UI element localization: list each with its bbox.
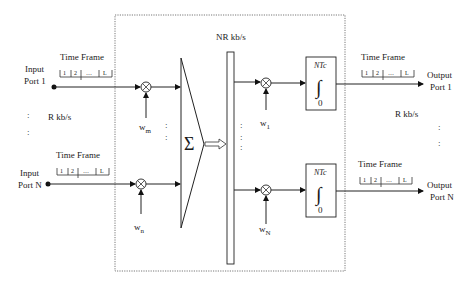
hollow-arrow-icon bbox=[205, 139, 226, 149]
svg-text:2: 2 bbox=[74, 70, 77, 76]
svg-text:2: 2 bbox=[376, 70, 379, 76]
input-rate-label: R kb/s bbox=[48, 112, 72, 122]
ellipsis-vertical: : bbox=[240, 142, 243, 152]
output-branch-n: wN NTc ∫ 0 Time Frame 1 2 … L Output Por… bbox=[234, 159, 454, 237]
ellipsis-vertical: : bbox=[165, 120, 168, 130]
sigma-icon: Σ bbox=[184, 134, 194, 154]
bus-rate-label: NR kb/s bbox=[216, 32, 246, 42]
input-port-1-label-line1: Input bbox=[25, 64, 44, 74]
input-port-1-label-line2: Port 1 bbox=[24, 76, 46, 86]
output-port-n-frame-label: Time Frame bbox=[358, 159, 402, 169]
input-port-n-frame-label: Time Frame bbox=[56, 150, 100, 160]
ellipsis-vertical: : bbox=[165, 132, 168, 142]
svg-text:L: L bbox=[405, 70, 409, 76]
svg-text:L: L bbox=[100, 168, 104, 174]
weight-wn: wn bbox=[134, 222, 145, 235]
svg-text:…: … bbox=[386, 177, 392, 183]
ellipsis-vertical: : bbox=[240, 120, 243, 130]
output-port-1-time-frame: 1 2 … L bbox=[362, 70, 414, 80]
svg-text:…: … bbox=[86, 70, 92, 76]
integrator-lower-limit: 0 bbox=[318, 205, 323, 215]
bus-bar bbox=[227, 52, 234, 264]
weight-wN: wN bbox=[259, 224, 271, 237]
weight-wm: wm bbox=[139, 122, 152, 135]
svg-text:2: 2 bbox=[374, 177, 377, 183]
svg-text:1: 1 bbox=[60, 168, 63, 174]
input-port-n: Input Port N Time Frame 1 2 … L wn bbox=[18, 150, 180, 235]
svg-text:L: L bbox=[103, 70, 107, 76]
output-port-1-frame-label: Time Frame bbox=[361, 52, 405, 62]
ellipsis-vertical: : bbox=[240, 132, 243, 142]
weight-w1: w1 bbox=[260, 118, 271, 131]
svg-text:…: … bbox=[83, 168, 89, 174]
output-port-1-label-line2: Port 1 bbox=[430, 82, 452, 92]
multiplier-icon bbox=[141, 82, 151, 92]
output-port-n-label-line1: Output bbox=[427, 180, 453, 190]
switch-architecture-diagram: Input Port 1 Time Frame 1 2 … L wm : : R… bbox=[0, 0, 475, 290]
input-port-n-time-frame: 1 2 … L bbox=[57, 168, 109, 178]
summation-block: Σ bbox=[181, 58, 204, 228]
ellipsis-vertical: : bbox=[438, 122, 441, 132]
multiplier-icon bbox=[261, 78, 271, 88]
integrator-upper-limit: NTc bbox=[313, 61, 327, 70]
input-port-n-label-line1: Input bbox=[20, 168, 39, 178]
output-branch-1: w1 NTc ∫ 0 Time Frame 1 2 … L Output Por… bbox=[234, 52, 453, 131]
svg-text:2: 2 bbox=[71, 168, 74, 174]
output-rate-label: R kb/s bbox=[395, 109, 419, 119]
input-port-n-label-line2: Port N bbox=[18, 180, 42, 190]
output-port-1-label-line1: Output bbox=[427, 70, 453, 80]
ellipsis-vertical: : bbox=[27, 110, 30, 120]
svg-text:L: L bbox=[403, 177, 407, 183]
svg-text:…: … bbox=[388, 70, 394, 76]
ellipsis-vertical: : bbox=[27, 127, 30, 137]
output-port-n-time-frame: 1 2 … L bbox=[360, 177, 412, 187]
svg-text:1: 1 bbox=[365, 70, 368, 76]
ellipsis-vertical: : bbox=[438, 138, 441, 148]
output-port-n-label-line2: Port N bbox=[430, 192, 454, 202]
input-port-1: Input Port 1 Time Frame 1 2 … L wm bbox=[24, 52, 180, 135]
svg-text:1: 1 bbox=[63, 70, 66, 76]
input-port-1-frame-label: Time Frame bbox=[60, 52, 104, 62]
integrator-upper-limit: NTc bbox=[313, 168, 327, 177]
svg-text:1: 1 bbox=[363, 177, 366, 183]
multiplier-icon bbox=[261, 185, 271, 195]
multiplier-icon bbox=[136, 179, 146, 189]
integrator-lower-limit: 0 bbox=[318, 98, 323, 108]
input-port-1-time-frame: 1 2 … L bbox=[60, 70, 112, 80]
